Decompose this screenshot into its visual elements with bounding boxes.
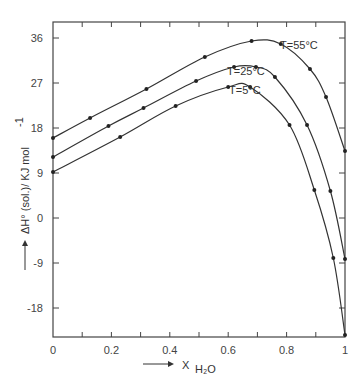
data-point — [51, 155, 55, 159]
data-point — [118, 135, 122, 139]
x-axis-label-main: X — [182, 359, 190, 371]
x-axis-title: X H₂O — [143, 359, 216, 375]
data-point — [194, 79, 198, 83]
data-point — [203, 55, 207, 59]
x-tick-label: 0.2 — [104, 344, 119, 356]
data-point — [51, 170, 55, 174]
series-line — [53, 65, 345, 259]
label-t5: T=5°C — [229, 84, 261, 96]
data-point — [88, 116, 92, 120]
data-point — [142, 106, 146, 110]
series-line — [53, 83, 345, 335]
data-points — [51, 39, 347, 337]
x-tick-label: 0.6 — [221, 344, 236, 356]
x-tick-label: 1 — [342, 344, 348, 356]
data-point — [312, 188, 316, 192]
series-line — [53, 40, 345, 151]
x-axis-label-sub: H₂O — [195, 363, 216, 375]
data-point — [331, 256, 335, 260]
data-point — [343, 257, 347, 261]
y-axis-title: ΔH° (sol.)/ KJ mol -1 — [13, 117, 31, 270]
data-point — [174, 104, 178, 108]
label-t25: T=25°C — [227, 65, 265, 77]
y-tick-label: 18 — [31, 122, 43, 134]
enthalpy-chart: 00.20.40.60.8136271890-9-18 T=55°C T=25°… — [0, 0, 364, 386]
data-point — [305, 123, 309, 127]
y-tick-label: -9 — [33, 257, 43, 269]
y-axis-label: ΔH° (sol.)/ KJ mol — [19, 147, 31, 234]
x-tick-label: 0.8 — [279, 344, 294, 356]
data-point — [144, 87, 148, 91]
label-t55: T=55°C — [280, 39, 318, 51]
data-point — [106, 124, 110, 128]
data-point — [288, 123, 292, 127]
plot-border — [53, 22, 345, 337]
y-tick-label: 27 — [31, 77, 43, 89]
data-point — [324, 95, 328, 99]
data-point — [343, 333, 347, 337]
data-point — [250, 39, 254, 43]
axis-ticks: 00.20.40.60.8136271890-9-18 — [27, 22, 348, 356]
plot-frame — [53, 22, 345, 337]
x-arrow-head-icon — [168, 361, 174, 367]
y-tick-label: 9 — [37, 167, 43, 179]
y-arrow-head-icon — [22, 240, 28, 246]
data-point — [328, 189, 332, 193]
data-point — [51, 136, 55, 140]
data-point — [308, 67, 312, 71]
x-tick-label: 0 — [50, 344, 56, 356]
data-point — [273, 75, 277, 79]
y-axis-label-sup: -1 — [13, 117, 25, 127]
x-tick-label: 0.4 — [162, 344, 177, 356]
y-tick-label: -18 — [27, 302, 43, 314]
y-tick-label: 36 — [31, 32, 43, 44]
y-tick-label: 0 — [37, 212, 43, 224]
data-series — [53, 40, 345, 335]
data-point — [343, 149, 347, 153]
